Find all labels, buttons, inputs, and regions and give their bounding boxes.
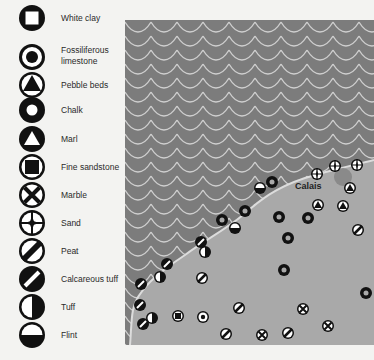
legend-item-fossiliferous-limestone: Fossiliferous limestone (0, 43, 125, 73)
calcareous-tuff-icon (18, 265, 46, 293)
flint-marker (254, 182, 266, 194)
legend-label: Marble (61, 190, 87, 201)
legend-label: Fossiliferous limestone (61, 45, 121, 67)
marble-marker (322, 320, 334, 332)
fine-sandstone-marker (172, 310, 184, 322)
peat-marker (352, 224, 364, 236)
chalk-marker (273, 211, 285, 223)
pebble-beds-marker (312, 199, 324, 211)
legend: White clay Fossiliferous limestone Pebbl… (0, 0, 125, 360)
geology-map: Calais (125, 20, 374, 345)
peat-marker (220, 328, 232, 340)
legend-label: Fine sandstone (61, 162, 119, 173)
legend-label: Pebble beds (61, 80, 108, 91)
peat-marker (282, 327, 294, 339)
legend-item-flint: Flint (0, 321, 125, 351)
marble-marker (256, 329, 268, 341)
legend-label: Marl (61, 134, 78, 145)
map-canvas (125, 20, 374, 345)
chalk-marker (216, 214, 228, 226)
marble-icon (18, 181, 46, 209)
tuff-marker (154, 271, 166, 283)
legend-label: White clay (61, 13, 100, 24)
legend-item-tuff: Tuff (0, 293, 125, 323)
chalk-marker (282, 232, 294, 244)
chalk-marker (278, 264, 290, 276)
calcareous-tuff-marker (137, 318, 149, 330)
legend-label: Tuff (61, 302, 75, 313)
legend-label: Chalk (61, 105, 83, 116)
legend-label: Calcareous tuff (61, 274, 118, 285)
chalk-marker (266, 176, 278, 188)
sand-icon (18, 209, 46, 237)
legend-item-peat: Peat (0, 237, 125, 267)
legend-label: Peat (61, 246, 79, 257)
marl-icon (18, 125, 46, 153)
sand-marker (351, 159, 363, 171)
sand-marker (311, 168, 323, 180)
legend-item-marble: Marble (0, 181, 125, 211)
chalk-icon (18, 96, 46, 124)
chalk-marker (302, 212, 314, 224)
legend-item-calcareous-tuff: Calcareous tuff (0, 265, 125, 295)
peat-icon (18, 237, 46, 265)
peat-marker (233, 302, 245, 314)
calais-label: Calais (295, 181, 322, 191)
marble-marker (297, 303, 309, 315)
legend-item-chalk: Chalk (0, 96, 125, 126)
sand-marker (329, 160, 341, 172)
calcareous-tuff-marker (161, 258, 173, 270)
legend-item-marl: Marl (0, 125, 125, 155)
legend-label: Sand (61, 218, 81, 229)
legend-item-fine-sandstone: Fine sandstone (0, 153, 125, 183)
tuff-icon (18, 293, 46, 321)
calcareous-tuff-marker (135, 278, 147, 290)
fossiliferous-limestone-marker (197, 311, 209, 323)
chalk-marker (360, 287, 372, 299)
pebble-beds-marker (344, 182, 356, 194)
peat-marker (196, 272, 208, 284)
fossiliferous-limestone-icon (18, 43, 46, 71)
flint-icon (18, 321, 46, 349)
calcareous-tuff-marker (134, 299, 146, 311)
fine-sandstone-icon (18, 153, 46, 181)
legend-label: Flint (61, 330, 77, 341)
white-clay-icon (18, 4, 46, 32)
chalk-marker (239, 205, 251, 217)
legend-item-sand: Sand (0, 209, 125, 239)
flint-marker (229, 222, 241, 234)
calcareous-tuff-marker (195, 236, 207, 248)
legend-item-white-clay: White clay (0, 4, 125, 34)
pebble-beds-icon (18, 71, 46, 99)
pebble-beds-marker (337, 200, 349, 212)
